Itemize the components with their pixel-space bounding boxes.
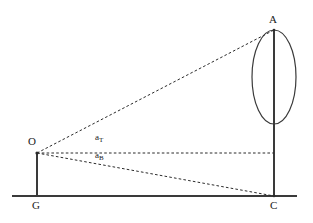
diagram-canvas: A O G C aT aB — [0, 0, 313, 223]
sight-line-o-to-c — [37, 153, 274, 196]
point-label-a: A — [269, 14, 277, 25]
vertex-dot-a — [273, 29, 276, 32]
vertex-dots-group — [35, 29, 275, 198]
point-label-o: O — [28, 136, 36, 147]
angle-label-a-bottom-subscript: B — [99, 154, 104, 162]
angle-label-a-top-subscript: T — [99, 136, 103, 144]
target-ellipse-group — [252, 30, 296, 124]
angle-label-a-bottom: aB — [95, 151, 104, 162]
sight-line-o-to-a — [37, 30, 274, 153]
point-label-g: G — [32, 200, 40, 211]
geometry-svg — [0, 0, 313, 223]
angle-label-a-top: aT — [95, 133, 103, 144]
vertex-dot-o — [35, 151, 38, 154]
dashed-lines-group — [37, 30, 274, 196]
vertex-dot-c — [273, 195, 276, 198]
point-label-c: C — [270, 200, 277, 211]
